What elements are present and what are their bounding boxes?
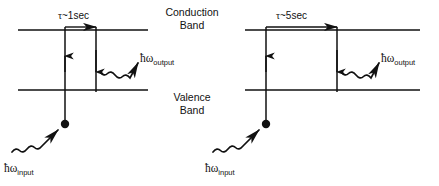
input-photon-wave-right bbox=[213, 130, 259, 152]
electron-dot-right bbox=[262, 120, 270, 128]
output-photon-symbol-right: ħω bbox=[381, 52, 395, 64]
input-photon-wave-left bbox=[12, 130, 58, 152]
output-photon-label-right: ħωoutput bbox=[381, 52, 416, 67]
valence-band-label-line2: Band bbox=[180, 104, 205, 116]
band-diagram-figure: τ~1sec τ~5sec Conduction Band Valence Ba… bbox=[0, 0, 439, 186]
valence-band-label-line1: Valence bbox=[173, 91, 210, 103]
tau-label-right: τ~5sec bbox=[276, 10, 307, 21]
input-photon-label-left: ħωinput bbox=[4, 162, 35, 177]
tau-value-left: ~1sec bbox=[62, 10, 89, 21]
output-photon-wave-right bbox=[341, 63, 379, 78]
input-photon-label-right: ħωinput bbox=[205, 162, 236, 177]
tau-value-right: ~5sec bbox=[280, 10, 307, 21]
input-photon-symbol-left: ħω bbox=[4, 162, 18, 174]
output-photon-wave-left bbox=[100, 63, 138, 78]
tau-label-left: τ~1sec bbox=[58, 10, 89, 21]
electron-dot-left bbox=[61, 120, 69, 128]
output-photon-label-left: ħωoutput bbox=[140, 52, 175, 67]
output-photon-subscript-left: output bbox=[153, 58, 175, 67]
input-photon-symbol-right: ħω bbox=[205, 162, 219, 174]
output-photon-subscript-right: output bbox=[394, 58, 416, 67]
input-photon-subscript-right: input bbox=[218, 168, 235, 177]
conduction-band-label-line1: Conduction bbox=[165, 6, 218, 18]
panel-right bbox=[213, 27, 420, 152]
panel-left bbox=[12, 27, 148, 152]
output-photon-symbol-left: ħω bbox=[140, 52, 154, 64]
input-photon-subscript-left: input bbox=[17, 168, 34, 177]
conduction-band-label-line2: Band bbox=[180, 19, 205, 31]
diagram-canvas: τ~1sec τ~5sec Conduction Band Valence Ba… bbox=[0, 0, 439, 186]
